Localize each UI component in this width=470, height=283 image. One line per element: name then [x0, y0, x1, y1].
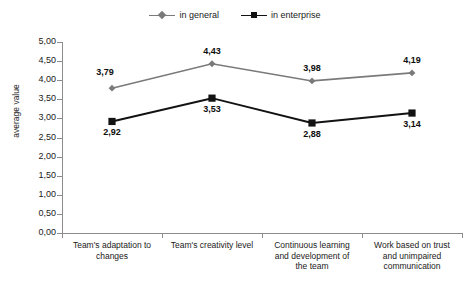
category-label-2-line1: Continuous learning [274, 240, 350, 250]
square-marker-icon [308, 119, 315, 126]
y-tick-label: 1,00 [28, 190, 56, 199]
data-label: 4,43 [192, 47, 232, 56]
y-tick-label: 4,50 [28, 56, 56, 65]
legend-label-in-enterprise: in enterprise [271, 10, 321, 20]
x-axis-tick [62, 233, 63, 238]
y-tick-label: 0,00 [28, 228, 56, 237]
y-tick-label: 2,00 [28, 152, 56, 161]
category-label-3: Work based on trust and unimpaired commu… [362, 240, 462, 283]
category-label-3-line3: communication [383, 261, 440, 271]
diamond-marker-icon [309, 78, 316, 85]
data-label: 2,92 [92, 128, 132, 137]
square-marker-icon [108, 118, 115, 125]
y-tick-label: 1,50 [28, 171, 56, 180]
x-axis-category-labels: Team's adaptation to changes Team's crea… [62, 240, 462, 283]
y-axis-tick-labels: 5,004,504,003,503,002,502,001,501,000,50… [28, 0, 56, 283]
category-label-2-line3: the team [295, 261, 328, 271]
y-tick-label: 2,50 [28, 133, 56, 142]
y-axis-title: average value [11, 71, 21, 151]
data-label: 3,14 [392, 120, 432, 129]
data-label: 4,19 [392, 56, 432, 65]
category-label-3-line2: and unimpaired [383, 251, 442, 261]
category-label-0-line1: Team's adaptation to [73, 240, 151, 250]
data-label: 2,88 [292, 130, 332, 139]
square-marker-icon [408, 109, 415, 116]
series-line-in-enterprise [112, 98, 412, 123]
category-label-3-line1: Work based on trust [374, 240, 450, 250]
data-label: 3,98 [292, 64, 332, 73]
legend-item-in-enterprise: in enterprise [241, 10, 321, 20]
y-tick-label: 4,00 [28, 75, 56, 84]
chart-legend: in general in enterprise [0, 10, 470, 20]
y-tick-label: 0,50 [28, 209, 56, 218]
legend-label-in-general: in general [179, 10, 219, 20]
category-label-2-line2: and development of [275, 251, 350, 261]
x-axis-tick [362, 233, 363, 238]
y-tick-label: 5,00 [28, 37, 56, 46]
y-tick-label: 3,00 [28, 113, 56, 122]
category-label-2: Continuous learning and development of t… [262, 240, 362, 283]
diamond-marker-icon [158, 10, 166, 18]
legend-swatch-in-general [149, 11, 175, 20]
category-label-1-line1: Team's creativity level [171, 240, 253, 250]
diamond-marker-icon [209, 60, 216, 67]
legend-item-in-general: in general [149, 10, 219, 20]
legend-swatch-in-enterprise [241, 11, 267, 20]
category-label-0: Team's adaptation to changes [62, 240, 162, 283]
x-axis-tick [262, 233, 263, 238]
category-label-0-line2: changes [96, 251, 128, 261]
data-label: 3,53 [192, 105, 232, 114]
x-axis-tick [462, 233, 463, 238]
data-label: 3,79 [85, 68, 125, 77]
series-line-in-general [112, 64, 412, 88]
x-axis-tick [162, 233, 163, 238]
diamond-marker-icon [109, 85, 116, 92]
square-marker-icon [208, 95, 215, 102]
y-tick-label: 3,50 [28, 94, 56, 103]
category-label-1: Team's creativity level [162, 240, 262, 283]
square-marker-icon [251, 12, 257, 18]
diamond-marker-icon [409, 70, 416, 77]
chart-figure: in general in enterprise average value 5… [0, 0, 470, 283]
